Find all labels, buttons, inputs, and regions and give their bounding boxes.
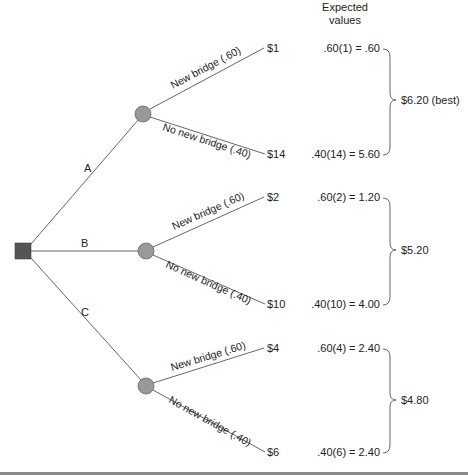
chance-node-b [138,243,154,259]
payoff-b-no-new-bridge: $10 [267,298,285,310]
expected-value-b: $5.20 [401,244,429,256]
payoff-a-no-new-bridge: $14 [267,148,285,160]
edge-alternative-a [31,119,139,244]
ev-calc-b-new-bridge: .60(2) = 1.20 [317,191,380,203]
edge-a-new-bridge [150,48,264,109]
expected-value-a: $6.20 (best) [401,94,460,106]
ev-calc-a-no-new-bridge: .40(14) = 5.60 [311,148,380,160]
expected-values-header-line1: Expected [322,1,368,13]
brace-b [383,198,396,305]
payoff-a-new-bridge: $1 [267,42,279,54]
decision-node-square [15,243,31,259]
expected-value-c: $4.80 [401,394,429,406]
chance-node-c [138,378,154,394]
expected-values-header-line2: values [329,14,361,26]
branch-label-b-no-new-bridge: No new bridge (.40) [164,258,253,306]
decision-tree: Expected values A B C New bridge (.60) N… [0,0,468,475]
edge-alternative-c [31,258,141,380]
branch-label-c-new-bridge: New bridge (.60) [169,339,247,373]
ev-calc-c-new-bridge: .60(4) = 2.40 [317,342,380,354]
chance-node-a [135,106,151,122]
brace-c [383,349,396,453]
branch-label-a-new-bridge: New bridge (.60) [168,44,242,91]
payoff-c-no-new-bridge: $6 [267,446,279,458]
payoff-b-new-bridge: $2 [267,191,279,203]
alternative-label-a: A [84,162,92,174]
ev-calc-a-new-bridge: .60(1) = .60 [323,42,380,54]
ev-calc-c-no-new-bridge: .40(6) = 2.40 [317,446,380,458]
branch-label-a-no-new-bridge: No new bridge (.40) [161,120,252,160]
ev-calc-b-no-new-bridge: .40(10) = 4.00 [311,298,380,310]
alternative-label-b: B [81,237,88,249]
brace-a [383,49,396,155]
branch-label-c-no-new-bridge: No new bridge (.40) [167,393,253,448]
payoff-c-new-bridge: $4 [267,342,279,354]
alternative-label-c: C [81,306,89,318]
